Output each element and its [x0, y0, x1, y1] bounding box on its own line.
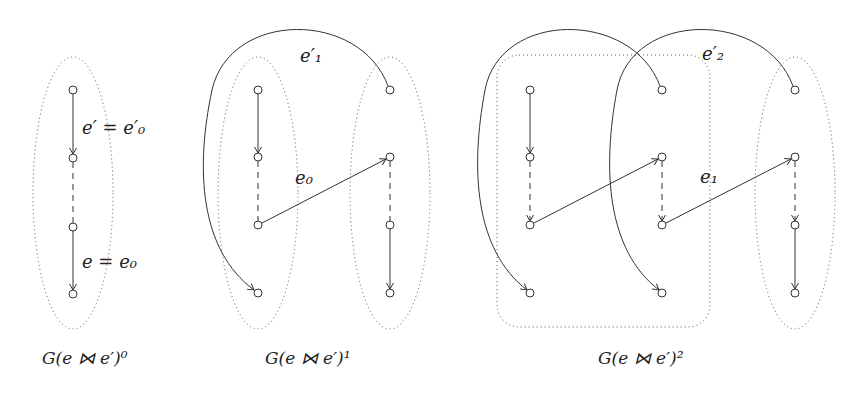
node	[69, 290, 77, 298]
node	[386, 86, 394, 94]
node	[526, 153, 534, 161]
cross-edge-label: e₀	[295, 167, 313, 188]
node	[791, 86, 799, 94]
node	[254, 221, 262, 229]
node	[386, 221, 394, 229]
diagram-canvas: e′ = e′₀ e = e₀ G(e ⋈ e′)⁰ e′₁ e₀ G(e ⋈ …	[0, 0, 860, 401]
edge-label-bottom: e = e₀	[82, 251, 137, 272]
cross-edge	[666, 159, 791, 223]
node	[791, 289, 799, 297]
node	[526, 289, 534, 297]
node	[386, 289, 394, 297]
node	[254, 289, 262, 297]
node	[791, 221, 799, 229]
arc-edge-label: e′₂	[702, 43, 724, 64]
panel-0: e′ = e′₀ e = e₀ G(e ⋈ e′)⁰	[33, 57, 145, 368]
cross-edge-label: e₁	[700, 166, 718, 187]
node	[658, 86, 666, 94]
node	[658, 153, 666, 161]
node	[658, 221, 666, 229]
node	[791, 153, 799, 161]
component-outline-merged	[497, 55, 710, 327]
arc-edge	[478, 29, 660, 290]
node	[658, 289, 666, 297]
node	[386, 153, 394, 161]
node	[526, 221, 534, 229]
node	[254, 86, 262, 94]
cross-edge	[534, 159, 658, 223]
arc-edge	[610, 29, 793, 290]
node	[526, 86, 534, 94]
panel-1: e′₁ e₀ G(e ⋈ e′)¹	[203, 29, 430, 368]
panel-caption: G(e ⋈ e′)⁰	[42, 348, 128, 368]
node	[69, 223, 77, 231]
arc-edge-label: e′₁	[300, 45, 322, 66]
panel-caption: G(e ⋈ e′)¹	[265, 348, 350, 368]
node	[69, 86, 77, 94]
arc-edge	[203, 29, 388, 290]
node	[254, 153, 262, 161]
cross-edge	[262, 159, 386, 223]
edge-label-top: e′ = e′₀	[82, 117, 145, 138]
panel-2: e′₂ e₁ G(e ⋈ e′)²	[478, 29, 835, 368]
panel-caption: G(e ⋈ e′)²	[598, 348, 684, 368]
node	[69, 154, 77, 162]
